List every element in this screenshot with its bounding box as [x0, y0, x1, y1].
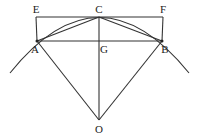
segment-EA — [36, 17, 37, 41]
segment-BO — [99, 41, 162, 120]
segment-FB — [162, 17, 163, 41]
label-B: B — [161, 43, 168, 55]
geometry-diagram: E C F A G B O — [0, 0, 199, 140]
segment-CB — [99, 17, 162, 41]
label-A: A — [31, 43, 39, 55]
label-O: O — [95, 123, 103, 135]
label-F: F — [160, 3, 166, 15]
label-E: E — [33, 3, 40, 15]
label-G: G — [100, 43, 108, 55]
segment-AC — [37, 17, 99, 41]
segment-AO — [37, 41, 99, 120]
label-C: C — [95, 3, 102, 15]
